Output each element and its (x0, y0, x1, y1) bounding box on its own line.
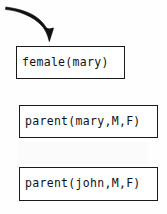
fact-box-parent-mary[interactable]: parent(mary,M,F) (19, 105, 158, 138)
prolog-goal-diagram: female(mary) parent(mary,M,F) parent(joh… (0, 0, 167, 214)
fact-text: female(mary) (17, 56, 109, 68)
fact-box-female-mary[interactable]: female(mary) (16, 46, 125, 79)
scan-artifact (18, 142, 148, 164)
fact-box-parent-john[interactable]: parent(john,M,F) (19, 167, 158, 201)
fact-text: parent(john,M,F) (20, 178, 141, 190)
fact-text: parent(mary,M,F) (20, 115, 141, 127)
